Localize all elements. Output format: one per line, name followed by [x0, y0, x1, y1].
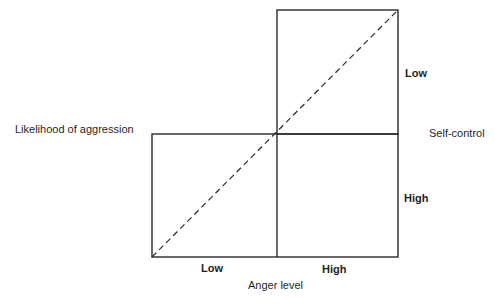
y-axis-label: Likelihood of aggression: [15, 123, 134, 135]
self-control-high-label: High: [404, 192, 428, 204]
lower-quadrant-box: [152, 134, 398, 257]
diagram-graphic: [0, 0, 495, 308]
anger-low-label: Low: [201, 262, 223, 274]
x-axis-label: Anger level: [248, 279, 303, 291]
diagram-canvas: Likelihood of aggression Self-control Lo…: [0, 0, 495, 308]
right-axis-label: Self-control: [429, 127, 485, 139]
self-control-low-label: Low: [405, 67, 427, 79]
anger-high-label: High: [322, 263, 346, 275]
